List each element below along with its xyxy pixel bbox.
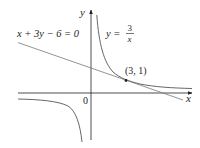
origin-label: 0 — [83, 95, 88, 106]
line-equation-label: x + 3y − 6 = 0 — [16, 28, 80, 39]
hyperbola-right-branch — [97, 15, 192, 89]
tangent-line — [18, 43, 183, 100]
curve-equation-lhs: y = — [105, 28, 120, 39]
y-axis-label: y — [79, 6, 85, 18]
tangent-point-label: (3, 1) — [125, 65, 147, 77]
x-axis-label: x — [185, 92, 191, 104]
curve-equation-numerator: 3 — [128, 23, 133, 33]
hyperbola-left-branch — [18, 99, 82, 142]
tangent-point-marker — [125, 79, 128, 82]
graph-diagram: y x 0 x + 3y − 6 = 0 y = 3 x (3, 1) — [0, 0, 200, 148]
curve-equation-denominator: x — [127, 34, 132, 44]
